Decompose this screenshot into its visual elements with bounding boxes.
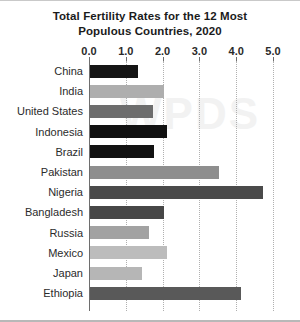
bar-ethiopia[interactable] <box>90 287 241 300</box>
category-label-india: India <box>59 81 83 101</box>
bar-pakistan[interactable] <box>90 166 219 179</box>
bar-nigeria[interactable] <box>90 186 263 199</box>
x-tick-label-2.0: 2.0 <box>155 45 170 57</box>
bar-row[interactable]: United States <box>89 101 273 121</box>
x-tick-label-5.0: 5.0 <box>265 45 280 57</box>
bar-mexico[interactable] <box>90 246 167 259</box>
x-tick-label-1.0: 1.0 <box>118 45 133 57</box>
category-label-china: China <box>54 61 83 81</box>
chart-title-line-1: Total Fertility Rates for the 12 Most <box>0 9 300 24</box>
x-tick-label-0.0: 0.0 <box>81 45 96 57</box>
category-label-japan: Japan <box>53 263 83 283</box>
category-label-russia: Russia <box>49 223 83 243</box>
category-label-indonesia: Indonesia <box>35 122 83 142</box>
bar-brazil[interactable] <box>90 145 154 158</box>
bar-japan[interactable] <box>90 267 142 280</box>
category-label-nigeria: Nigeria <box>48 182 83 202</box>
chart-title: Total Fertility Rates for the 12 Most Po… <box>0 9 300 38</box>
category-label-pakistan: Pakistan <box>41 162 83 182</box>
category-label-mexico: Mexico <box>48 243 83 263</box>
bar-indonesia[interactable] <box>90 125 167 138</box>
bar-bangladesh[interactable] <box>90 206 164 219</box>
bar-row[interactable]: Pakistan <box>89 162 273 182</box>
x-tick-label-4.0: 4.0 <box>229 45 244 57</box>
fertility-rate-bar-chart: WPDS Total Fertility Rates for the 12 Mo… <box>0 0 300 322</box>
bar-row[interactable]: China <box>89 61 273 81</box>
bar-united-states[interactable] <box>90 105 153 118</box>
chart-title-line-2: Populous Countries, 2020 <box>0 24 300 39</box>
plot-area: ChinaIndiaUnited StatesIndonesiaBrazilPa… <box>89 61 273 311</box>
category-label-bangladesh: Bangladesh <box>25 202 83 222</box>
bar-china[interactable] <box>90 65 138 78</box>
bar-row[interactable]: Bangladesh <box>89 202 273 222</box>
bar-row[interactable]: Nigeria <box>89 182 273 202</box>
bar-row[interactable]: Brazil <box>89 142 273 162</box>
category-label-united-states: United States <box>17 101 83 121</box>
gridline-5.0 <box>273 61 274 311</box>
bar-india[interactable] <box>90 85 164 98</box>
bar-row[interactable]: Ethiopia <box>89 283 273 303</box>
bar-row[interactable]: Mexico <box>89 243 273 263</box>
bar-russia[interactable] <box>90 226 149 239</box>
category-label-ethiopia: Ethiopia <box>43 283 83 303</box>
category-label-brazil: Brazil <box>55 142 83 162</box>
x-tick-label-3.0: 3.0 <box>192 45 207 57</box>
bar-row[interactable]: Indonesia <box>89 122 273 142</box>
bar-row[interactable]: Japan <box>89 263 273 283</box>
bar-row[interactable]: India <box>89 81 273 101</box>
bar-row[interactable]: Russia <box>89 223 273 243</box>
